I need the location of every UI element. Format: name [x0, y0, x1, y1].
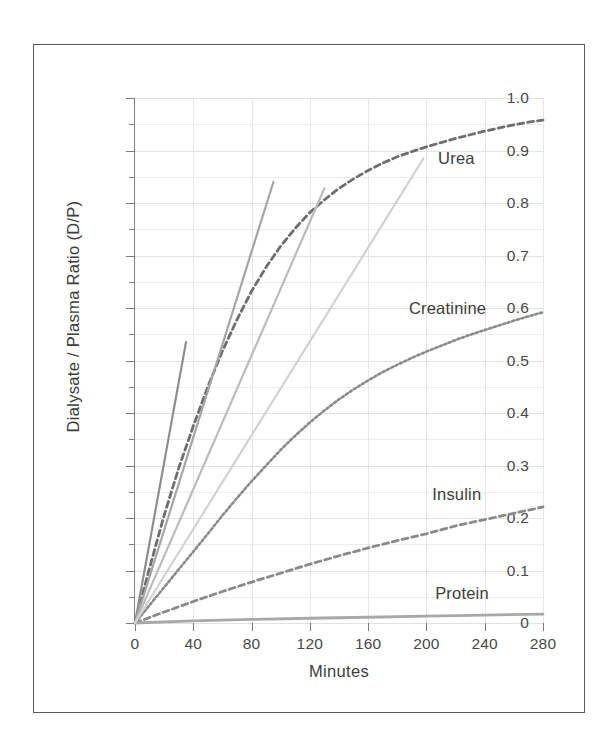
- x-tick-label: 160: [355, 635, 381, 653]
- series-line-protein: [135, 614, 543, 623]
- y-tick-major: [126, 256, 135, 257]
- y-tick-major: [126, 518, 135, 519]
- plot-wrapper: 00.10.20.30.40.50.60.70.80.91.0040801201…: [34, 45, 586, 714]
- x-tick: [485, 623, 486, 631]
- x-tick-label: 40: [184, 635, 202, 653]
- x-tick-label: 0: [131, 635, 140, 653]
- series-line-steep-line-3: [135, 188, 324, 623]
- series-curves: [135, 98, 543, 623]
- plot-area: 00.10.20.30.40.50.60.70.80.91.0040801201…: [135, 98, 543, 623]
- gridline-vertical: [543, 98, 544, 623]
- series-label-insulin: Insulin: [432, 485, 481, 504]
- x-tick-label: 280: [530, 635, 556, 653]
- figure-frame: 00.10.20.30.40.50.60.70.80.91.0040801201…: [33, 44, 585, 713]
- y-tick-major: [126, 361, 135, 362]
- x-tick: [368, 623, 369, 631]
- x-tick: [193, 623, 194, 631]
- y-tick-major: [126, 413, 135, 414]
- x-tick-label: 120: [297, 635, 323, 653]
- y-tick-major: [126, 151, 135, 152]
- series-line-steep-line-2: [135, 182, 273, 623]
- y-tick-major: [126, 308, 135, 309]
- x-tick: [426, 623, 427, 631]
- series-line-creatinine: [135, 312, 543, 623]
- x-tick-label: 200: [413, 635, 439, 653]
- series-label-creatinine: Creatinine: [409, 299, 486, 318]
- gridline-horizontal: [135, 623, 543, 624]
- series-label-protein: Protein: [435, 583, 489, 602]
- y-tick-major: [126, 98, 135, 99]
- series-label-urea: Urea: [438, 149, 475, 168]
- x-tick: [543, 623, 544, 631]
- y-tick-major: [126, 203, 135, 204]
- x-tick: [310, 623, 311, 631]
- x-tick-label: 240: [471, 635, 497, 653]
- y-axis-title: Dialysate / Plasma Ratio (D/P): [64, 82, 83, 552]
- y-tick-major: [126, 466, 135, 467]
- x-tick-label: 80: [243, 635, 261, 653]
- x-axis-title: Minutes: [135, 662, 543, 681]
- x-tick: [252, 623, 253, 631]
- y-tick-major: [126, 571, 135, 572]
